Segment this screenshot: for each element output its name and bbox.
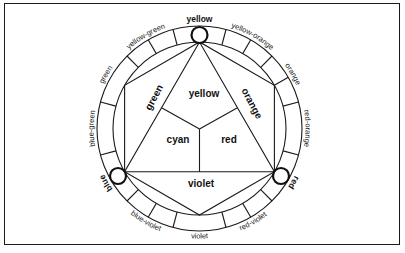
ring-label-yellow: yellow — [187, 14, 213, 24]
color-wheel-diagram: blue-green green yellow-green yellow yel… — [0, 0, 405, 253]
red-primary-marker — [273, 168, 289, 184]
inner-label-violet: violet — [188, 178, 215, 189]
ring-label-red-orange: red-orange — [302, 109, 313, 148]
ring-label-blue-violet: blue-violet — [129, 209, 163, 234]
ring-label-green: green — [97, 64, 114, 85]
ring-label-blue-green: blue-green — [87, 110, 97, 148]
inner-label-yellow: yellow — [189, 88, 220, 99]
blue-primary-marker — [110, 168, 126, 184]
inner-label-red: red — [221, 134, 237, 145]
hexagon-and-triangle — [125, 42, 275, 215]
yellow-primary-marker — [192, 27, 208, 43]
ring-label-yellow-orange: yellow-orange — [230, 21, 275, 52]
ring-label-yellow-green: yellow-green — [124, 22, 166, 51]
ring-label-violet: violet — [191, 231, 209, 240]
ring-label-red-violet: red-violet — [238, 209, 269, 232]
inner-label-orange: orange — [239, 86, 265, 121]
inner-label-cyan: cyan — [167, 134, 190, 145]
